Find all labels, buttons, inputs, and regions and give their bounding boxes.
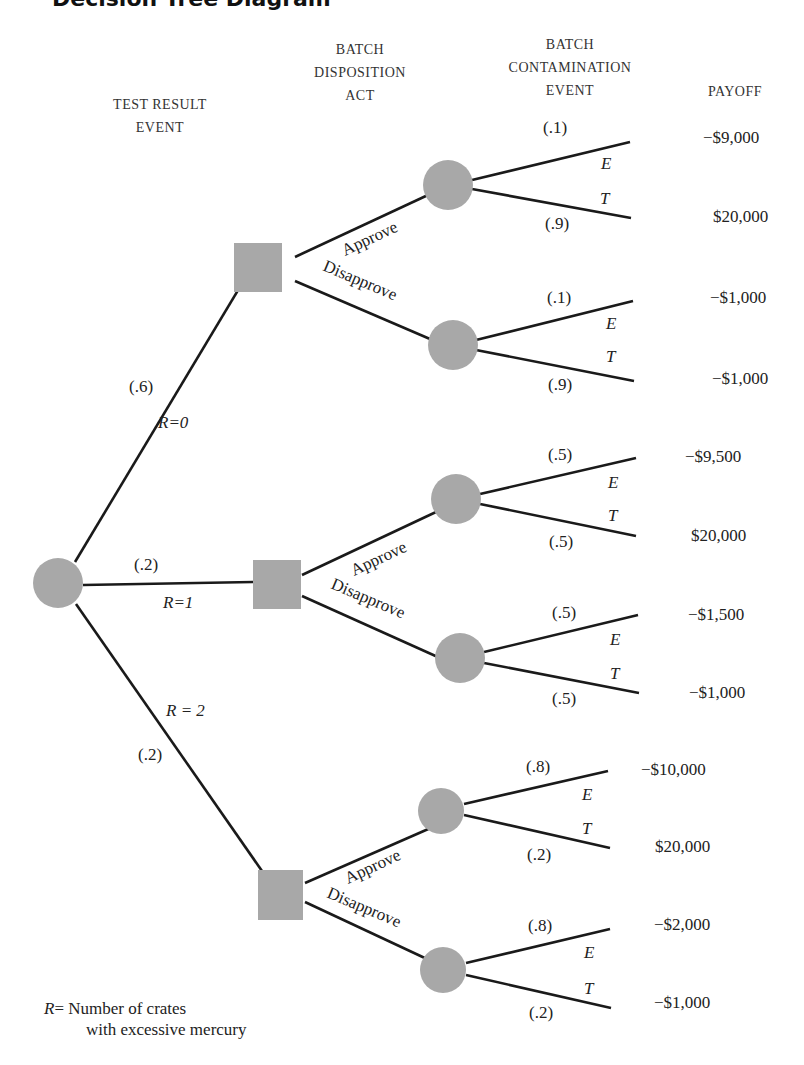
legend-line2: with excessive mercury (44, 1019, 247, 1040)
prob-e-1a: (.1) (543, 118, 567, 137)
act-approve-3: Approve (342, 845, 404, 887)
label-e: E (600, 154, 612, 173)
prob-t-3a: (.2) (527, 845, 551, 864)
payoff-10: $20,000 (655, 837, 710, 856)
decision-node-3 (258, 870, 303, 920)
chance-node-4 (435, 633, 485, 683)
edge-r0 (75, 262, 255, 562)
prob-t-2d: (.5) (552, 689, 576, 708)
payoff-3: −$1,000 (710, 288, 766, 307)
edge-r1 (83, 582, 253, 585)
payoff-5: −$9,500 (685, 447, 741, 466)
prob-e-2d: (.5) (552, 603, 576, 622)
payoff-6: $20,000 (691, 526, 746, 545)
label-e: E (607, 473, 619, 492)
legend-line1: Number of crates (68, 999, 186, 1018)
label-t: T (606, 347, 617, 366)
label-e: E (583, 943, 595, 962)
label-t: T (584, 979, 595, 998)
chance-node-1 (423, 160, 473, 210)
event-r1: R=1 (162, 593, 193, 612)
prob-t-1a: (.9) (545, 214, 569, 233)
prob-e-2a: (.5) (548, 445, 572, 464)
prob-e-3a: (.8) (526, 757, 550, 776)
chance-node-2 (428, 320, 478, 370)
chance-node-5 (418, 788, 464, 834)
prob-r1: (.2) (134, 555, 158, 574)
root-chance-node (33, 558, 83, 608)
act-approve-2: Approve (348, 537, 410, 579)
legend: R= Number of crates with excessive mercu… (44, 998, 247, 1040)
payoff-4: −$1,000 (712, 369, 768, 388)
prob-t-2a: (.5) (549, 532, 573, 551)
payoff-2: $20,000 (713, 207, 768, 226)
prob-e-1d: (.1) (547, 288, 571, 307)
decision-node-1 (234, 243, 282, 292)
event-r0: R=0 (157, 413, 189, 432)
label-t: T (600, 189, 611, 208)
label-t: T (608, 506, 619, 525)
payoff-11: −$2,000 (654, 915, 710, 934)
label-t: T (582, 819, 593, 838)
label-t: T (610, 664, 621, 683)
decision-node-2 (253, 560, 301, 609)
chance-node-6 (420, 947, 466, 993)
act-disapprove-2: Disapprove (328, 574, 408, 622)
payoff-9: −$10,000 (641, 760, 706, 779)
legend-eq: = (54, 999, 64, 1018)
prob-r0: (.6) (129, 377, 153, 396)
payoff-7: −$1,500 (688, 605, 744, 624)
prob-r2: (.2) (138, 745, 162, 764)
event-r2: R = 2 (165, 701, 205, 720)
decision-tree: (.6) R=0 (.2) R=1 R = 2 (.2) Approve Dis… (0, 0, 804, 1065)
chance-node-3 (431, 474, 481, 524)
label-e: E (605, 314, 617, 333)
label-e: E (581, 785, 593, 804)
payoff-12: −$1,000 (654, 993, 710, 1012)
legend-symbol: R (44, 999, 54, 1018)
prob-e-3d: (.8) (528, 916, 552, 935)
prob-t-3d: (.2) (529, 1003, 553, 1022)
payoff-8: −$1,000 (689, 683, 745, 702)
payoff-1: −$9,000 (703, 128, 759, 147)
act-disapprove-3: Disapprove (324, 883, 404, 931)
edge-r2 (76, 604, 262, 871)
prob-t-1d: (.9) (548, 375, 572, 394)
label-e: E (609, 630, 621, 649)
